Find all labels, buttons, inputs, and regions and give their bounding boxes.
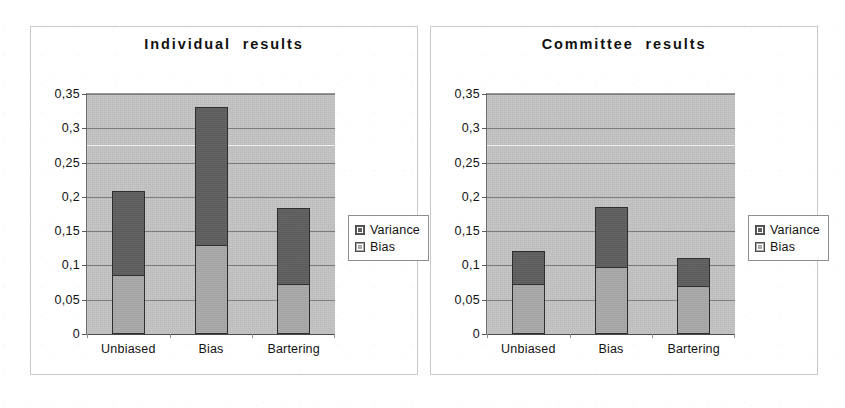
x-axis-category-label: Bartering [267,342,320,356]
y-axis-tick [82,94,87,95]
y-axis-label: 0,05 [454,293,480,307]
x-axis-tick [570,334,571,338]
y-axis-label: 0,35 [54,87,80,101]
x-axis-baseline [82,334,335,335]
gridline-faded [487,145,735,146]
y-axis-label: 0,35 [454,87,480,101]
y-axis-tick [482,265,487,266]
y-axis-label: 0,1 [462,258,480,272]
stacked-bar[interactable] [277,209,310,334]
x-axis-tick [652,334,653,338]
legend-swatch-bias-icon [755,242,765,252]
y-axis-tick [82,197,87,198]
x-axis-category-label: Bartering [667,342,720,356]
plot-area-committee: 00,050,10,150,20,250,30,35UnbiasedBiasBa… [486,93,735,334]
bar-segment-bias[interactable] [277,284,310,334]
legend-label-bias: Bias [370,240,395,254]
bar-segment-variance[interactable] [595,207,628,268]
x-axis-category-label: Unbiased [501,342,555,356]
y-axis-label: 0,2 [62,190,80,204]
x-axis-category-label: Unbiased [101,342,155,356]
legend-swatch-variance-icon [755,225,765,235]
y-axis-tick [82,163,87,164]
legend-committee: Variance Bias [748,215,829,261]
y-axis-label: 0 [473,327,480,341]
gridline [487,128,735,129]
legend-individual: Variance Bias [348,215,429,261]
stacked-bar[interactable] [595,208,628,334]
page-title-individual: Individual results [31,36,417,52]
bar-segment-variance[interactable] [277,208,310,285]
x-axis-tick [252,334,253,338]
legend-item-variance: Variance [355,221,420,238]
x-axis-tick [170,334,171,338]
legend-item-variance: Variance [755,221,820,238]
bar-segment-bias[interactable] [195,245,228,334]
y-axis-label: 0,3 [62,121,80,135]
legend-label-bias: Bias [770,240,795,254]
stacked-bar[interactable] [195,108,228,334]
bar-segment-variance[interactable] [112,191,145,276]
bar-segment-variance[interactable] [677,258,710,286]
stacked-bar[interactable] [512,252,545,334]
y-axis-tick [82,300,87,301]
x-axis-baseline [482,334,735,335]
y-axis-label: 0,25 [54,156,80,170]
y-axis-tick [482,197,487,198]
bar-segment-bias[interactable] [677,286,710,334]
bar-segment-bias[interactable] [512,284,545,334]
y-axis-label: 0,25 [454,156,480,170]
chart-panel-individual: Individual results 00,050,10,150,20,250,… [30,26,418,375]
bar-segment-variance[interactable] [195,107,228,247]
legend-label-variance: Variance [770,223,820,237]
y-axis-label: 0,05 [54,293,80,307]
y-axis-label: 0 [73,327,80,341]
gridline [487,197,735,198]
y-axis-label: 0,3 [462,121,480,135]
legend-item-bias: Bias [355,238,420,255]
y-axis-tick [482,231,487,232]
gridline [487,94,735,95]
gridline [487,163,735,164]
figure-two-stacked-bar-charts: Individual results 00,050,10,150,20,250,… [0,0,845,408]
y-axis-tick [482,300,487,301]
stacked-bar[interactable] [112,192,145,334]
bar-segment-bias[interactable] [595,267,628,335]
x-axis-tick [87,334,88,338]
legend-label-variance: Variance [370,223,420,237]
legend-item-bias: Bias [755,238,820,255]
stacked-bar[interactable] [677,259,710,334]
x-axis-tick [487,334,488,338]
y-axis-tick [482,94,487,95]
x-axis-category-label: Bias [198,342,223,356]
bar-segment-bias[interactable] [112,275,145,334]
gridline [87,94,335,95]
legend-swatch-variance-icon [355,225,365,235]
plot-area-individual: 00,050,10,150,20,250,30,35UnbiasedBiasBa… [86,93,335,334]
y-axis-label: 0,2 [462,190,480,204]
y-axis-tick [482,128,487,129]
y-axis-label: 0,15 [54,224,80,238]
y-axis-tick [482,163,487,164]
y-axis-tick [82,231,87,232]
y-axis-tick [82,128,87,129]
page-title-committee: Committee results [431,36,817,52]
y-axis-tick [82,265,87,266]
bar-segment-variance[interactable] [512,251,545,284]
x-axis-category-label: Bias [598,342,623,356]
x-axis-tick [734,334,735,338]
x-axis-tick [334,334,335,338]
y-axis-label: 0,15 [454,224,480,238]
legend-swatch-bias-icon [355,242,365,252]
y-axis-label: 0,1 [62,258,80,272]
chart-panel-committee: Committee results 00,050,10,150,20,250,3… [430,26,818,375]
